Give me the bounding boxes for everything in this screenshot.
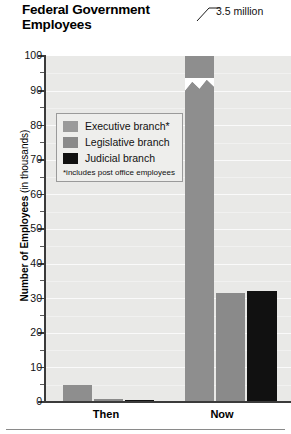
legend-item-legislative: Legislative branch [63, 135, 176, 149]
gridline-60 [45, 194, 291, 195]
callout-label: 3.5 million [216, 5, 263, 17]
gridline-minor-35 [45, 281, 291, 282]
legend-item-executive: Executive branch* [63, 119, 176, 133]
page-title-line-1: Federal Government [22, 2, 202, 17]
y-tick-label-20: 20 [2, 327, 42, 338]
page-title-line-2: Employees [22, 17, 202, 32]
legend: Executive branch* Legislative branch Jud… [56, 113, 183, 182]
legend-label-legislative: Legislative branch [85, 137, 170, 148]
page-title: Federal Government Employees [22, 2, 202, 32]
x-axis-label-then: Then [76, 408, 136, 420]
bottom-divider [6, 429, 285, 430]
axis-break-icon [185, 78, 214, 98]
bar-now-judicial [247, 291, 277, 402]
y-tick-label-10: 10 [2, 362, 42, 373]
legend-label-executive: Executive branch* [85, 121, 170, 132]
legend-swatch-judicial-icon [63, 153, 78, 164]
bar-now-legislative [216, 293, 245, 402]
y-tick-minor-75 [40, 142, 44, 143]
y-tick-minor-65 [40, 177, 44, 178]
gridline-90 [45, 91, 291, 92]
y-tick-label-90: 90 [2, 85, 42, 96]
legend-footnote: *includes post office employees [63, 168, 176, 177]
legend-swatch-legislative-icon [63, 137, 78, 148]
y-tick-minor-25 [40, 315, 44, 316]
legend-item-judicial: Judicial branch [63, 151, 176, 165]
y-tick-minor-45 [40, 246, 44, 247]
x-axis-line [44, 401, 291, 403]
gridline-minor-45 [45, 246, 291, 247]
y-tick-minor-5 [40, 384, 44, 385]
y-axis-title-unit: (in thousands) [19, 130, 30, 196]
y-tick-label-0: 0 [2, 396, 42, 407]
y-tick-minor-85 [40, 107, 44, 108]
legend-swatch-executive-icon [63, 121, 78, 132]
gridline-minor-55 [45, 212, 291, 213]
y-axis-title-main: Number of Employees [19, 196, 30, 302]
plot-area: Executive branch* Legislative branch Jud… [45, 56, 291, 402]
y-tick-label-100: 100 [2, 50, 42, 61]
gridline-50 [45, 229, 291, 230]
gridline-minor-95 [45, 73, 291, 74]
y-tick-minor-35 [40, 280, 44, 281]
y-tick-minor-95 [40, 72, 44, 73]
y-axis-title: Number of Employees (in thousands) [19, 106, 30, 326]
gridline-minor-85 [45, 108, 291, 109]
y-tick-minor-15 [40, 350, 44, 351]
bar-then-executive [63, 385, 92, 402]
x-axis-label-now: Now [192, 408, 252, 420]
y-axis-line [44, 55, 46, 403]
bar-now-executive [185, 56, 214, 402]
legend-label-judicial: Judicial branch [85, 153, 155, 164]
gridline-40 [45, 264, 291, 265]
y-tick-minor-55 [40, 211, 44, 212]
